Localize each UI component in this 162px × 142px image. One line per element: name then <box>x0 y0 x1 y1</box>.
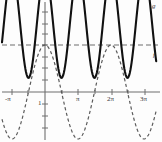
figure-canvas: -π π 2π 3π 1 g f <box>0 0 162 142</box>
plot-svg <box>0 0 162 142</box>
y-tick-label-neg-one: 1 <box>38 100 42 107</box>
x-tick-label-pi: π <box>76 96 80 103</box>
curve-label-f: f <box>153 52 155 59</box>
x-tick-label-neg-pi: -π <box>5 96 11 103</box>
x-tick-label-3pi: 3π <box>140 96 147 103</box>
curve-label-g: g <box>152 3 156 10</box>
x-tick-label-2pi: 2π <box>107 96 114 103</box>
curve-g <box>2 0 156 78</box>
